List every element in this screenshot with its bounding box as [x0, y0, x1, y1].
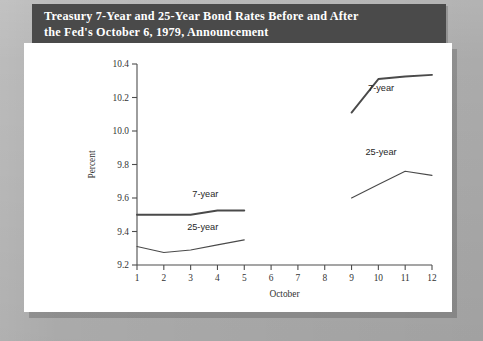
x-axis-title: October [269, 289, 300, 299]
series-annotations: 7-year25-year7-year25-year [187, 83, 396, 232]
x-tick-label: 5 [242, 273, 247, 283]
y-tick-label: 9.2 [117, 260, 129, 270]
x-tick-label: 10 [374, 273, 384, 283]
line-chart: 9.29.49.69.810.010.210.4 123456789101112… [24, 43, 452, 312]
x-tick-label: 4 [215, 273, 220, 283]
x-tick-label: 8 [322, 273, 327, 283]
y-tick-label: 9.6 [117, 193, 129, 203]
y-tick-label: 9.4 [117, 227, 129, 237]
y-tick-label: 9.8 [117, 160, 129, 170]
series-line [352, 171, 432, 198]
y-tick-label: 10.4 [113, 59, 130, 69]
series-label: 7-year [368, 83, 394, 93]
x-tick-label: 6 [269, 273, 274, 283]
x-axis: 123456789101112 [135, 265, 437, 283]
x-tick-label: 9 [349, 273, 354, 283]
x-tick-label: 12 [427, 273, 437, 283]
x-tick-label: 11 [401, 273, 410, 283]
x-tick-label: 3 [188, 273, 193, 283]
x-tick-label: 2 [161, 273, 166, 283]
series-label: 25-year [187, 222, 218, 232]
y-tick-label: 10.0 [113, 126, 130, 136]
x-tick-label: 1 [135, 273, 140, 283]
series-label: 25-year [365, 147, 396, 157]
series-line [352, 75, 432, 113]
data-series-group [137, 75, 432, 253]
series-line [137, 211, 244, 215]
figure-title-line-2: the Fed's October 6, 1979, Announcement [44, 24, 269, 41]
y-axis-title: Percent [87, 150, 97, 179]
series-label: 7-year [192, 189, 218, 199]
x-tick-label: 7 [296, 273, 301, 283]
y-tick-label: 10.2 [113, 93, 130, 103]
figure-title-bar: Treasury 7-Year and 25-Year Bond Rates B… [32, 4, 446, 43]
y-axis: 9.29.49.69.810.010.210.4 [113, 59, 137, 270]
series-line [137, 240, 244, 253]
figure-title-line-1: Treasury 7-Year and 25-Year Bond Rates B… [44, 8, 359, 25]
chart-panel: 9.29.49.69.810.010.210.4 123456789101112… [24, 43, 452, 312]
